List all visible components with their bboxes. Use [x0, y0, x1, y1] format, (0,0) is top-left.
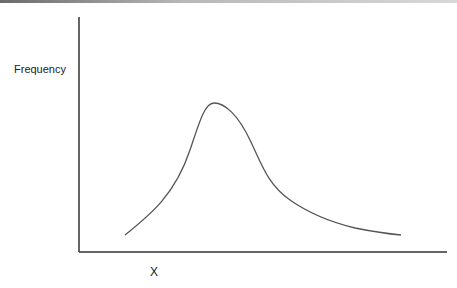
distribution-curve — [125, 103, 401, 235]
y-axis-label: Frequency — [14, 63, 66, 75]
x-axis-label: X — [150, 265, 158, 279]
chart-canvas — [0, 0, 457, 288]
